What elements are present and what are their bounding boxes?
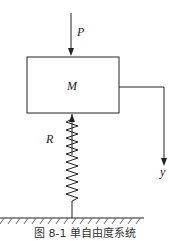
diagram-canvas [0, 0, 169, 241]
force-label-p: P [77, 26, 84, 38]
ground-hatching [0, 218, 140, 224]
figure-caption: 图 8-1 单自由度系统 [34, 228, 136, 239]
force-arrow-p [68, 13, 74, 56]
mass-label-m: M [67, 80, 77, 92]
spring [66, 114, 78, 208]
axis-label-y: y [160, 166, 165, 178]
displacement-axis-y [119, 87, 167, 166]
reaction-label-r: R [46, 133, 53, 145]
